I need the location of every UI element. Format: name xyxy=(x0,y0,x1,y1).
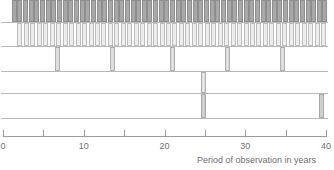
x-axis-tick xyxy=(3,130,4,137)
x-axis-tick xyxy=(124,130,125,137)
x-axis-tick xyxy=(286,130,287,137)
x-axis-tick xyxy=(326,130,327,137)
x-axis-tick-label: 40 xyxy=(306,141,334,151)
x-axis-tick-label: 30 xyxy=(225,141,265,151)
x-axis-tick-label: 0 xyxy=(0,141,23,151)
x-axis-tick-label: 20 xyxy=(145,141,185,151)
chart-root: 010203040 Period of observation in years xyxy=(0,0,334,170)
x-axis: 010203040 Period of observation in years xyxy=(0,0,334,170)
x-axis-tick-label: 10 xyxy=(64,141,104,151)
x-axis-tick xyxy=(245,130,246,137)
x-axis-tick xyxy=(84,130,85,137)
x-axis-title: Period of observation in years xyxy=(197,155,316,165)
x-axis-tick xyxy=(165,130,166,137)
x-axis-tick xyxy=(205,130,206,137)
x-axis-tick xyxy=(43,130,44,137)
